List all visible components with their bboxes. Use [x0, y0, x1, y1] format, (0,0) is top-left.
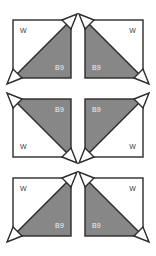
- gray-patch-label: B9: [55, 222, 64, 229]
- hst-block: WB9: [13, 20, 71, 78]
- gray-patch-label: B9: [92, 222, 101, 229]
- white-patch-label: W: [20, 185, 27, 192]
- hst-block: WB9: [85, 20, 143, 78]
- gray-patch-label: B9: [92, 64, 101, 71]
- hst-block: WB9: [13, 99, 71, 157]
- gray-patch-label: B9: [55, 64, 64, 71]
- gray-patch-label: B9: [55, 106, 64, 113]
- white-patch-label: W: [20, 143, 27, 150]
- hst-block: WB9: [85, 178, 143, 236]
- hst-block: WB9: [85, 99, 143, 157]
- white-patch-label: W: [129, 185, 136, 192]
- white-patch-label: W: [129, 27, 136, 34]
- white-patch-label: W: [129, 143, 136, 150]
- white-patch-label: W: [20, 27, 27, 34]
- hst-block: WB9: [13, 178, 71, 236]
- gray-patch-label: B9: [92, 106, 101, 113]
- block-diagram-canvas: WB9WB9WB9WB9WB9WB9: [0, 0, 156, 256]
